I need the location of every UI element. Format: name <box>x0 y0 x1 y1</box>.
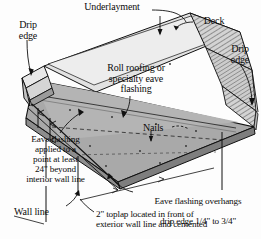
roofing-detail-figure: Underlayment Deck Drip edge Drip edge Ro… <box>0 0 261 239</box>
deck-edge-hatch <box>190 13 256 127</box>
label-roll-roofing: Roll roofing or specialty eave flashing <box>88 63 184 95</box>
label-wall-line: Wall line <box>14 207 72 218</box>
label-drip-edge-right: Drip edge <box>222 44 258 65</box>
label-drip-edge-left: Drip edge <box>8 20 48 41</box>
label-deck: Deck <box>195 16 233 27</box>
label-eave-flashing-applied: Eave flashing applied to a point at leas… <box>2 134 109 184</box>
label-underlayment: Underlayment <box>66 2 158 13</box>
label-nails: Nails <box>143 123 175 134</box>
overhang-line-1: Eave flashing overhangs <box>155 196 242 206</box>
label-toplap: 2" toplap located in front of exterior w… <box>96 209 260 229</box>
